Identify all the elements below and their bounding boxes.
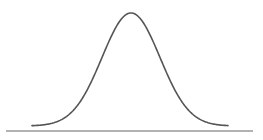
bell-curve xyxy=(32,13,228,126)
bell-curve-diagram xyxy=(0,0,263,140)
